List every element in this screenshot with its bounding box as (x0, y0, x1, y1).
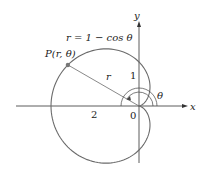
angle-label: θ (157, 90, 163, 101)
point-p (66, 63, 70, 67)
tick-label-1: 1 (130, 70, 136, 81)
x-axis-label: x (190, 101, 196, 112)
origin-label: 0 (130, 110, 136, 121)
y-axis-label: y (133, 10, 140, 21)
point-label: P(r, θ) (44, 48, 76, 59)
cardioid-diagram: r = 1 − cos θ P(r, θ) r θ x y 2 1 0 (0, 0, 204, 172)
radius-label: r (106, 71, 112, 82)
equation-label: r = 1 − cos θ (66, 32, 133, 43)
y-axis-arrow-icon (137, 21, 141, 27)
x-axis-arrow-icon (182, 104, 188, 108)
tick-label-2: 2 (91, 109, 97, 120)
